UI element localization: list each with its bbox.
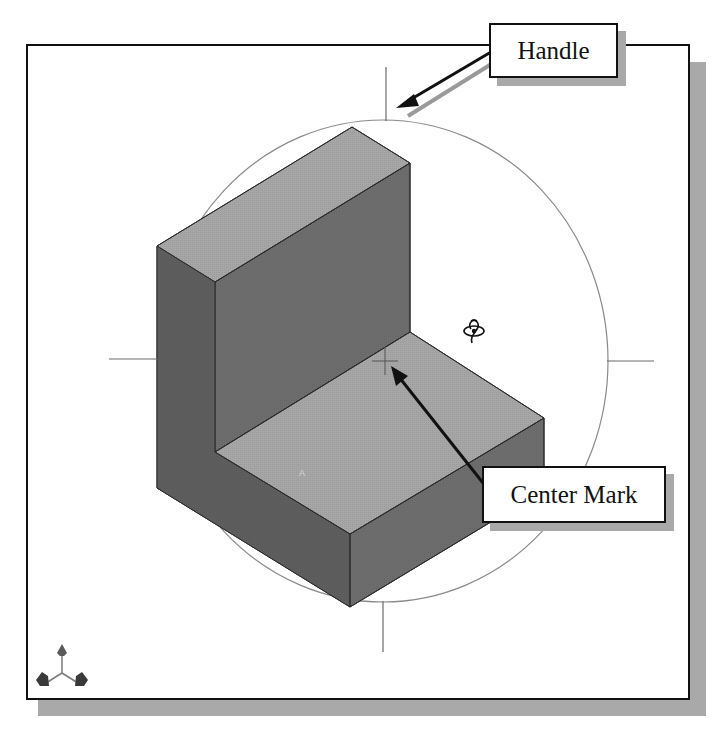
face-label: A bbox=[299, 468, 305, 478]
handle-callout: Handle bbox=[489, 23, 618, 78]
viewport-scene: A bbox=[0, 0, 714, 736]
handle-callout-label: Handle bbox=[517, 38, 589, 63]
figure-stage: A bbox=[0, 0, 714, 736]
center-mark-callout-label: Center Mark bbox=[510, 482, 637, 507]
center-mark-callout: Center Mark bbox=[482, 466, 666, 523]
